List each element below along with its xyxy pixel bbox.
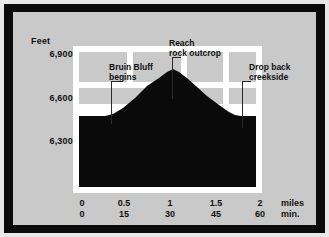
x-tick-4-miles: 2: [240, 198, 280, 209]
annotation-drop-back-creekside: Drop back creekside: [249, 62, 291, 82]
x-axis-unit-labels: miles min.: [281, 198, 304, 220]
x-tick-3-minutes: 45: [196, 209, 236, 220]
x-tick-2-miles: 1: [150, 198, 190, 209]
terrain-silhouette: [79, 52, 256, 187]
annotation-bruin-line1: Bruin Bluff: [109, 62, 153, 72]
annotation-bruin-line2: begins: [109, 72, 153, 82]
figure-inner-field: Feet 6,900 6,600 6,300: [13, 12, 316, 225]
leader-line-bruin-vertical: [111, 81, 112, 124]
leader-line-drop-vertical: [242, 81, 243, 128]
annotation-reach-line1: Reach: [169, 38, 221, 48]
x-tick-0: 0 0: [62, 198, 102, 220]
x-axis-unit-miles: miles: [281, 198, 304, 209]
elevation-profile-figure: Feet 6,900 6,600 6,300: [0, 0, 329, 237]
annotation-drop-line2: creekside: [249, 72, 291, 82]
leader-line-reach-vertical: [172, 57, 173, 99]
x-tick-4: 2 60: [240, 198, 280, 220]
x-tick-0-miles: 0: [62, 198, 102, 209]
plot-area: [73, 46, 262, 193]
x-axis: 0 0 0.5 15 1 30 1.5 45 2 60 miles min.: [68, 198, 316, 226]
x-tick-0-minutes: 0: [62, 209, 102, 220]
x-axis-unit-minutes: min.: [281, 209, 304, 220]
x-tick-1: 0.5 15: [104, 198, 144, 220]
y-tick-label-6600: 6,600: [17, 93, 73, 103]
annotation-reach-line2: rock outcrop: [169, 48, 221, 58]
annotation-drop-line1: Drop back: [249, 62, 291, 72]
y-tick-label-6300: 6,300: [17, 136, 73, 146]
annotation-bruin-bluff: Bruin Bluff begins: [109, 62, 153, 82]
x-tick-3: 1.5 45: [196, 198, 236, 220]
x-tick-1-miles: 0.5: [104, 198, 144, 209]
y-tick-label-6900: 6,900: [17, 49, 73, 59]
y-axis-unit-label: Feet: [31, 36, 71, 46]
x-tick-4-minutes: 60: [240, 209, 280, 220]
x-tick-2-minutes: 30: [150, 209, 190, 220]
x-tick-2: 1 30: [150, 198, 190, 220]
x-tick-1-minutes: 15: [104, 209, 144, 220]
x-tick-3-miles: 1.5: [196, 198, 236, 209]
annotation-rock-outcrop: Reach rock outcrop: [169, 38, 221, 58]
